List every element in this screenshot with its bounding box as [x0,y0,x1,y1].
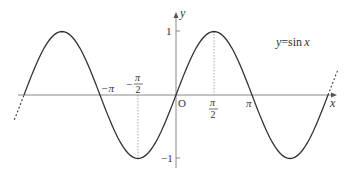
origin-label: O [178,97,186,109]
tick-label-neg-half-pi: − π 2 [126,72,143,95]
half-pi-den: 2 [211,109,216,120]
tick-label-neg-pi: −π [101,82,114,94]
function-label: y=sinx [275,35,310,49]
y-axis-label: y [179,6,186,20]
tick-label-pi: π [246,97,252,109]
function-label-var: x [303,35,310,49]
y-tick-label-1: 1 [166,25,172,37]
neg-half-pi-num: π [135,72,141,83]
y-axis-arrow-icon [174,12,179,18]
sine-curve-ext-right [328,69,338,95]
sine-graph: y x O 1 −1 −π π − π 2 π 2 y=sinx [0,0,350,177]
sine-curve-ext-left [14,95,24,120]
half-pi-num: π [210,97,216,108]
y-tick-label-neg1: −1 [161,152,173,164]
x-axis-label: x [329,96,336,110]
tick-label-half-pi: π 2 [209,97,218,120]
neg-half-pi-den: 2 [136,84,141,95]
neg-half-pi-sign: − [126,78,132,90]
function-label-fn: sin [288,35,302,49]
